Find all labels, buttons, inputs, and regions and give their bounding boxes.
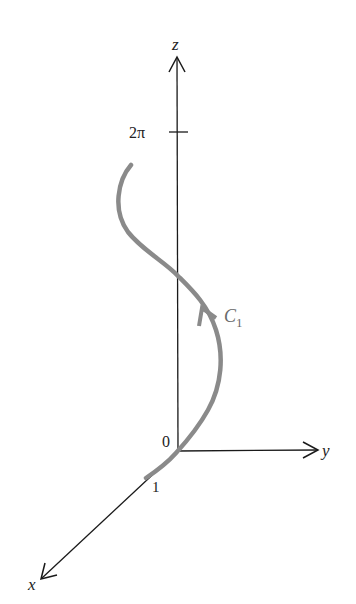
curve-label: C1 xyxy=(224,306,243,330)
z-axis xyxy=(169,57,188,452)
y-axis xyxy=(178,442,318,458)
z-axis-label: z xyxy=(171,35,179,54)
curve-c1 xyxy=(118,165,220,478)
y-axis-label: y xyxy=(320,441,330,460)
x-axis-label: x xyxy=(27,575,36,594)
x-tick-label: 1 xyxy=(152,479,160,495)
curve-label-subscript: 1 xyxy=(236,315,243,330)
z-tick-label: 2π xyxy=(129,124,145,141)
diagram-canvas: z 2π y x 0 1 C1 xyxy=(0,0,356,604)
origin-label: 0 xyxy=(162,433,170,450)
